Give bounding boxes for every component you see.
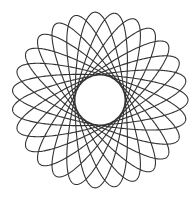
spirograph-canvas: [0, 0, 196, 199]
